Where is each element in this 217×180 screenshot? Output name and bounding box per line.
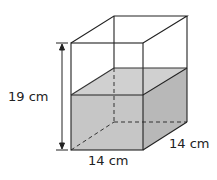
height-label: 19 cm — [8, 89, 49, 104]
width-label: 14 cm — [88, 153, 129, 168]
top-face-outline — [71, 16, 187, 43]
height-dimension-arrow — [56, 43, 68, 150]
depth-label: 14 cm — [169, 136, 210, 151]
tank-diagram: 19 cm 14 cm 14 cm — [0, 0, 217, 180]
water-front-face — [71, 95, 143, 150]
